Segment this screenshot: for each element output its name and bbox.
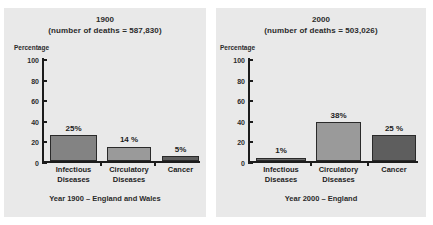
y-tick-label-60-1900: 60: [31, 98, 39, 105]
y-axis-title-2000: Percentage: [220, 44, 255, 51]
chart-panel-2000: 2000 (number of deaths = 503,026) Percen…: [216, 8, 426, 217]
x-category-label-circulatory-diseases-1900: Circulatory Diseases: [109, 165, 149, 184]
y-axis-title-1900: Percentage: [14, 44, 49, 51]
x-category-label-cancer-1900: Cancer: [168, 165, 193, 175]
bar-value-infectious-diseases-1900: 25%: [65, 124, 81, 133]
chart-caption-1900: Year 1900 – England and Wales: [4, 194, 206, 203]
y-tick-mark-40-1900: [42, 121, 47, 123]
y-tick-mark-100-1900: [42, 59, 47, 61]
plot-area-1900: 100 80 60 40 20 0 25% 14 % 5%: [42, 58, 200, 163]
x-axis-line-2000: [248, 161, 418, 163]
bar-infectious-diseases-2000: [256, 158, 306, 161]
chart-caption-2000: Year 2000 – England: [216, 194, 426, 203]
y-tick-mark-80-1900: [42, 80, 47, 82]
chart-title-2000: 2000 (number of deaths = 503,026): [216, 14, 426, 36]
bar-cancer-2000: [372, 135, 416, 161]
bar-cancer-1900: [162, 156, 199, 161]
chart-title-1900: 1900 (number of deaths = 587,830): [4, 14, 206, 36]
y-tick-mark-40-2000: [248, 121, 253, 123]
y-tick-label-40-2000: 40: [237, 118, 245, 125]
x-category-label-circulatory-diseases-2000: Circulatory Diseases: [319, 165, 359, 184]
y-tick-label-20-2000: 20: [237, 139, 245, 146]
y-tick-mark-0-1900: [42, 162, 47, 164]
x-tick-mark-1-1900: [100, 163, 102, 166]
y-tick-mark-20-1900: [42, 141, 47, 143]
x-tick-mark-1-2000: [310, 163, 312, 166]
y-axis-line-1900: [42, 58, 44, 163]
bar-value-circulatory-diseases-2000: 38%: [330, 111, 346, 120]
chart-panel-1900: 1900 (number of deaths = 587,830) Percen…: [4, 8, 206, 217]
chart-subtitle-deaths-1900: (number of deaths = 587,830): [4, 25, 206, 36]
y-axis-line-2000: [248, 58, 250, 163]
x-category-label-infectious-diseases-2000: Infectious Diseases: [263, 165, 298, 184]
y-tick-mark-80-2000: [248, 80, 253, 82]
y-tick-label-0-1900: 0: [35, 160, 39, 167]
bar-infectious-diseases-1900: [50, 135, 97, 161]
x-category-label-infectious-diseases-1900: Infectious Diseases: [56, 165, 91, 184]
x-tick-mark-2-1900: [154, 163, 156, 166]
x-axis-line-1900: [42, 161, 200, 163]
y-tick-mark-60-2000: [248, 100, 253, 102]
y-tick-mark-100-2000: [248, 59, 253, 61]
bar-value-cancer-2000: 25 %: [385, 124, 403, 133]
y-tick-label-100-1900: 100: [27, 57, 39, 64]
chart-subtitle-deaths-2000: (number of deaths = 503,026): [216, 25, 426, 36]
y-tick-label-60-2000: 60: [237, 98, 245, 105]
chart-title-year-1900: 1900: [4, 14, 206, 25]
y-tick-mark-60-1900: [42, 100, 47, 102]
bar-value-infectious-diseases-2000: 1%: [275, 146, 287, 155]
plot-area-2000: 100 80 60 40 20 0 1% 38% 25 %: [248, 58, 418, 163]
bar-value-cancer-1900: 5%: [175, 145, 187, 154]
chart-title-year-2000: 2000: [216, 14, 426, 25]
bar-value-circulatory-diseases-1900: 14 %: [120, 135, 138, 144]
y-tick-label-20-1900: 20: [31, 139, 39, 146]
y-tick-label-80-1900: 80: [31, 77, 39, 84]
y-tick-mark-20-2000: [248, 141, 253, 143]
two-panel-bar-chart-figure: 1900 (number of deaths = 587,830) Percen…: [0, 0, 433, 225]
y-tick-label-100-2000: 100: [233, 57, 245, 64]
y-tick-label-80-2000: 80: [237, 77, 245, 84]
x-category-label-cancer-2000: Cancer: [381, 165, 406, 175]
x-tick-mark-2-2000: [367, 163, 369, 166]
y-tick-label-40-1900: 40: [31, 118, 39, 125]
y-tick-mark-0-2000: [248, 162, 253, 164]
bar-circulatory-diseases-2000: [316, 122, 361, 161]
y-tick-label-0-2000: 0: [241, 160, 245, 167]
bar-circulatory-diseases-1900: [107, 147, 151, 161]
